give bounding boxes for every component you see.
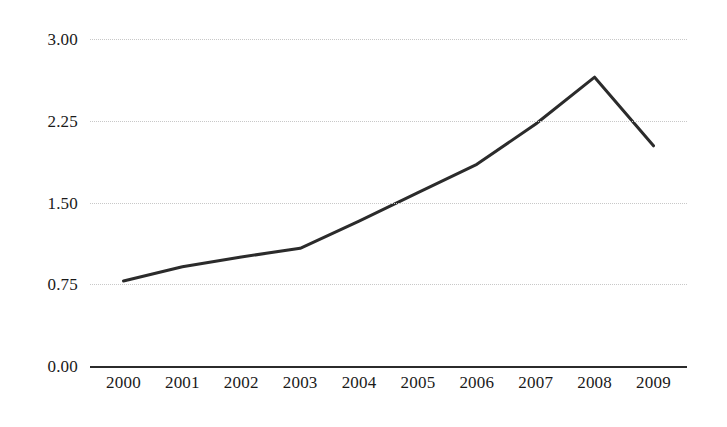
- axis-baseline: [90, 366, 687, 368]
- series-line: [124, 77, 654, 281]
- x-axis-tick-labels: 2000200120022003200420052006200720082009: [90, 372, 687, 400]
- y-axis-tick-label: 0.00: [16, 358, 78, 375]
- x-axis-tick-label: 2005: [385, 372, 451, 394]
- x-axis-tick-label: 2004: [326, 372, 392, 394]
- y-axis-tick-label: 1.50: [16, 194, 78, 211]
- gridline: [90, 284, 687, 285]
- gridline: [90, 39, 687, 40]
- plot-area: [90, 39, 687, 366]
- x-axis-tick-label: 2003: [267, 372, 333, 394]
- x-axis-tick-label: 2009: [621, 372, 687, 394]
- y-axis-tick-label: 0.75: [16, 276, 78, 293]
- gridline: [90, 121, 687, 122]
- gridline: [90, 203, 687, 204]
- x-axis-tick-label: 2002: [208, 372, 274, 394]
- y-axis-tick-label: 2.25: [16, 112, 78, 129]
- line-chart: 0.000.751.502.253.00 2000200120022003200…: [0, 0, 727, 427]
- x-axis-tick-label: 2006: [444, 372, 510, 394]
- x-axis-tick-label: 2008: [562, 372, 628, 394]
- x-axis-tick-label: 2000: [91, 372, 157, 394]
- y-axis-tick-label: 3.00: [16, 31, 78, 48]
- x-axis-tick-label: 2001: [149, 372, 215, 394]
- x-axis-tick-label: 2007: [503, 372, 569, 394]
- y-axis-tick-labels: 0.000.751.502.253.00: [0, 39, 78, 366]
